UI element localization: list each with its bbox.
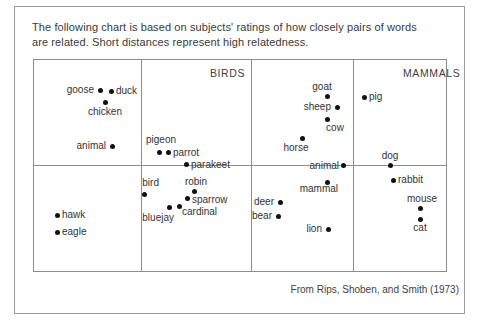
data-label-pig: pig — [369, 92, 382, 102]
data-point-eagle — [55, 230, 60, 235]
data-label-hawk: hawk — [62, 210, 85, 220]
data-point-cardinal — [177, 204, 182, 209]
data-point-goose — [98, 88, 103, 93]
data-point-animal-right — [341, 163, 346, 168]
data-point-sparrow — [185, 196, 190, 201]
data-label-bluejay: bluejay — [142, 213, 174, 223]
data-label-mammal: mammal — [300, 184, 338, 194]
quadrant-title-mammals: MAMMALS — [403, 67, 460, 79]
data-point-rabbit — [391, 178, 396, 183]
data-label-cow: cow — [326, 123, 344, 133]
data-point-animal-left — [110, 144, 115, 149]
data-label-duck: duck — [116, 86, 137, 96]
data-point-duck — [109, 89, 114, 94]
data-point-pig — [362, 95, 367, 100]
data-point-chicken — [103, 100, 108, 105]
data-label-parrot: parrot — [173, 148, 199, 158]
data-label-animal-right: animal — [310, 161, 339, 171]
data-label-bird: bird — [142, 178, 159, 188]
data-label-cat: cat — [413, 223, 426, 233]
data-point-bluejay — [167, 205, 172, 210]
divider-horizontal-1 — [34, 165, 446, 166]
data-point-parrot — [166, 150, 171, 155]
data-label-sparrow: sparrow — [192, 195, 228, 205]
figure-page: The following chart is based on subjects… — [0, 0, 479, 333]
data-point-goat — [325, 94, 330, 99]
data-point-robin — [192, 189, 197, 194]
data-label-cardinal: cardinal — [182, 207, 217, 217]
data-label-dog: dog — [382, 151, 399, 161]
data-label-goose: goose — [67, 85, 94, 95]
quadrant-title-birds: BIRDS — [210, 67, 245, 79]
data-label-deer: deer — [254, 197, 274, 207]
data-label-eagle: eagle — [62, 227, 86, 237]
data-label-mouse: mouse — [407, 194, 437, 204]
data-point-horse — [300, 136, 305, 141]
data-label-animal-left: animal — [77, 141, 106, 151]
data-label-goat: goat — [312, 82, 331, 92]
data-label-parakeet: parakeet — [191, 160, 230, 170]
data-point-deer — [278, 200, 283, 205]
figure-source-attribution: From Rips, Shoben, and Smith (1973) — [291, 284, 459, 295]
data-label-robin: robin — [185, 177, 207, 187]
data-label-chicken: chicken — [88, 107, 122, 117]
data-point-cow — [325, 117, 330, 122]
data-label-pigeon: pigeon — [146, 135, 176, 145]
data-label-lion: lion — [306, 224, 322, 234]
scatter-plot-area: BIRDS MAMMALS goose duck chicken animal … — [33, 59, 447, 272]
data-point-pigeon — [157, 150, 162, 155]
data-point-dog — [388, 163, 393, 168]
data-point-hawk — [55, 213, 60, 218]
data-label-rabbit: rabbit — [398, 175, 423, 185]
data-label-sheep: sheep — [304, 102, 331, 112]
data-point-parakeet — [184, 162, 189, 167]
data-point-sheep — [335, 105, 340, 110]
figure-caption: The following chart is based on subjects… — [32, 20, 432, 50]
data-point-mouse — [418, 206, 423, 211]
data-point-lion — [326, 227, 331, 232]
data-label-horse: horse — [283, 143, 308, 153]
data-point-bear — [276, 214, 281, 219]
data-point-cat — [418, 217, 423, 222]
data-label-bear: bear — [252, 211, 272, 221]
data-point-bird — [142, 192, 147, 197]
